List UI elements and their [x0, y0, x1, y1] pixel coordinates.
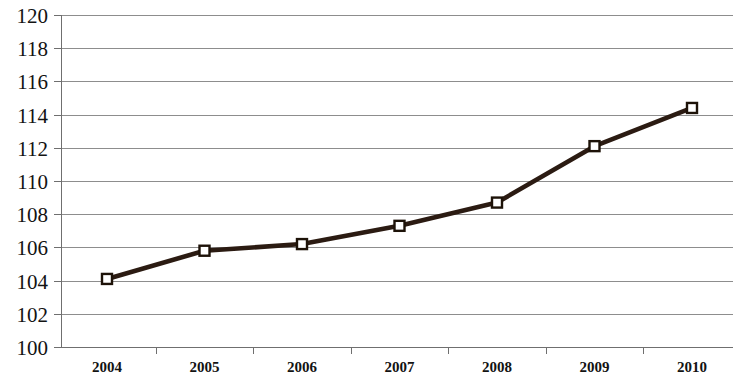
x-tick-label: 2005: [190, 359, 220, 375]
y-axis-tick-labels: 100102104106108110112114116118120: [17, 4, 49, 360]
x-tick-label: 2008: [482, 359, 512, 375]
chart-background: [0, 0, 733, 375]
y-tick-label: 118: [17, 37, 48, 61]
y-tick-label: 100: [17, 336, 49, 360]
y-tick-label: 108: [17, 203, 49, 227]
chart-canvas: 100102104106108110112114116118120 200420…: [0, 0, 733, 375]
line-chart: 100102104106108110112114116118120 200420…: [0, 0, 733, 375]
data-point-marker: [590, 141, 600, 151]
data-point-marker: [200, 246, 210, 256]
y-tick-label: 116: [17, 70, 48, 94]
x-tick-label: 2009: [580, 359, 610, 375]
data-point-marker: [395, 221, 405, 231]
x-tick-label: 2010: [677, 359, 707, 375]
data-point-marker: [492, 198, 502, 208]
x-tick-label: 2006: [287, 359, 318, 375]
y-tick-label: 106: [17, 236, 49, 260]
y-tick-label: 110: [17, 170, 48, 194]
x-tick-label: 2004: [92, 359, 123, 375]
y-tick-label: 112: [17, 137, 48, 161]
y-tick-label: 114: [17, 104, 48, 128]
y-tick-label: 120: [17, 4, 49, 28]
data-point-marker: [297, 239, 307, 249]
x-tick-label: 2007: [385, 359, 416, 375]
y-tick-label: 104: [17, 270, 49, 294]
data-point-marker: [102, 274, 112, 284]
data-point-marker: [687, 103, 697, 113]
y-tick-label: 102: [17, 303, 49, 327]
